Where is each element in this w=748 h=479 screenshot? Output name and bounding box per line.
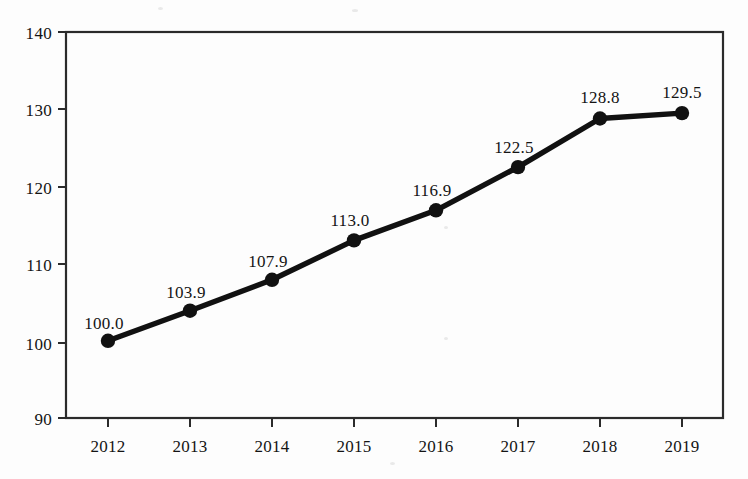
data-point-marker-2015	[347, 233, 361, 247]
y-tick-label-110: 110	[22, 257, 52, 274]
data-point-marker-2013	[183, 304, 197, 318]
data-point-label-2015: 113.0	[330, 212, 369, 229]
x-axis-ticks	[108, 418, 682, 427]
data-point-marker-2016	[429, 203, 443, 217]
data-series-index	[101, 106, 689, 348]
line-chart-plot	[0, 0, 748, 479]
x-tick-label-2019: 2019	[664, 438, 699, 455]
y-tick-label-90: 90	[22, 411, 52, 428]
y-tick-label-120: 120	[22, 180, 52, 197]
x-tick-label-2018: 2018	[582, 438, 617, 455]
chart-figure: 140 130 120 110 100 90 2012 2013 2014 20…	[0, 0, 748, 479]
data-point-marker-2014	[265, 273, 279, 287]
y-tick-label-100: 100	[22, 336, 52, 353]
x-tick-label-2016: 2016	[418, 438, 453, 455]
y-tick-label-130: 130	[22, 102, 52, 119]
data-point-label-2014: 107.9	[248, 253, 288, 270]
data-point-label-2018: 128.8	[580, 89, 620, 106]
data-point-label-2019: 129.5	[662, 84, 702, 101]
x-tick-label-2012: 2012	[90, 438, 125, 455]
data-point-label-2013: 103.9	[166, 284, 206, 301]
x-tick-label-2017: 2017	[500, 438, 535, 455]
x-tick-label-2014: 2014	[254, 438, 289, 455]
data-point-marker-2012	[101, 334, 115, 348]
x-tick-label-2013: 2013	[172, 438, 207, 455]
data-point-label-2016: 116.9	[412, 182, 451, 199]
data-point-label-2017: 122.5	[494, 139, 534, 156]
data-point-marker-2018	[593, 111, 607, 125]
y-axis-ticks	[58, 32, 66, 418]
data-point-label-2012: 100.0	[84, 315, 124, 332]
x-tick-label-2015: 2015	[336, 438, 371, 455]
data-point-marker-2017	[511, 160, 525, 174]
data-point-marker-2019	[675, 106, 689, 120]
y-tick-label-140: 140	[22, 25, 52, 42]
